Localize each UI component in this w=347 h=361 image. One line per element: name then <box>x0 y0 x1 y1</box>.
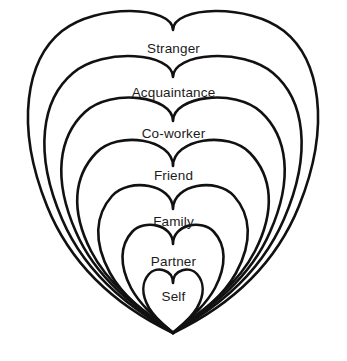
ring-label-acquaintance: Acquaintance <box>0 86 347 100</box>
ring-label-friend: Friend <box>0 169 347 183</box>
nested-hearts-diagram: Stranger Acquaintance Co-worker Friend F… <box>0 0 347 361</box>
ring-label-stranger: Stranger <box>0 42 347 56</box>
ring-label-family: Family <box>0 215 347 229</box>
ring-label-self: Self <box>0 290 347 304</box>
ring-label-partner: Partner <box>0 255 347 269</box>
ring-label-co-worker: Co-worker <box>0 127 347 141</box>
